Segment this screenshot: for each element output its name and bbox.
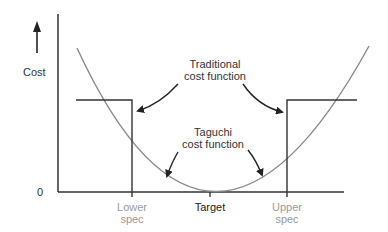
taguchi-annotation: Taguchi cost function bbox=[178, 126, 248, 150]
target-label: Target bbox=[190, 201, 230, 213]
cost-arrow-icon bbox=[33, 21, 41, 53]
traditional-annotation: Traditional cost function bbox=[180, 58, 250, 82]
traditional-cost-left bbox=[76, 100, 132, 197]
lower-spec-label: Lower spec bbox=[112, 201, 152, 225]
cost-function-diagram bbox=[0, 0, 388, 232]
arrow-taguchi-right bbox=[248, 150, 262, 175]
origin-label: 0 bbox=[37, 186, 43, 198]
arrow-traditional-left bbox=[138, 84, 178, 111]
arrow-traditional-right bbox=[243, 84, 282, 112]
arrow-taguchi-left bbox=[167, 152, 178, 176]
upper-spec-label: Upper spec bbox=[267, 201, 307, 225]
y-axis-label: Cost bbox=[23, 66, 46, 78]
